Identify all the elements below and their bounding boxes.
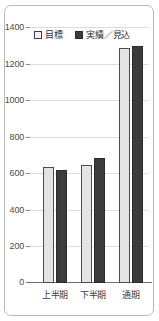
bar-groups (30, 27, 152, 283)
ytick-label-1000: 1000 (5, 95, 24, 105)
bar-target-0 (43, 167, 54, 283)
bar-target-1 (81, 165, 92, 283)
ytick-label-0: 0 (19, 277, 24, 287)
bar-target-2 (119, 48, 130, 283)
ytick-label-400: 400 (10, 205, 24, 215)
light-square-swatch-icon (34, 31, 42, 39)
bar-actual-1 (94, 158, 105, 283)
bar-group-1 (74, 27, 112, 283)
bar-group-2 (112, 27, 150, 283)
ytick-label-1200: 1200 (5, 59, 24, 69)
plot-area: 1400 1200 1000 800 600 400 200 0 (30, 27, 152, 283)
legend-item-actual: 実績／見込 (75, 28, 130, 41)
x-label-0: 上半期 (36, 288, 74, 304)
bar-actual-2 (132, 46, 143, 283)
ytick-label-200: 200 (10, 241, 24, 251)
chart-legend: 目標 実績／見込 (34, 28, 130, 41)
legend-item-target: 目標 (34, 28, 62, 41)
x-axis-labels: 上半期 下半期 通期 (30, 288, 152, 304)
ytick-label-800: 800 (10, 132, 24, 142)
chart-screenshot: 1400 1200 1000 800 600 400 200 0 (0, 0, 159, 321)
ytick-label-1400: 1400 (5, 22, 24, 32)
bar-actual-0 (56, 170, 67, 283)
bar-group-0 (36, 27, 74, 283)
x-label-1: 下半期 (74, 288, 112, 304)
x-label-2: 通期 (112, 288, 150, 304)
legend-label-actual: 実績／見込 (86, 28, 130, 41)
ytick-label-600: 600 (10, 168, 24, 178)
dark-square-swatch-icon (75, 31, 83, 39)
legend-label-target: 目標 (45, 28, 62, 41)
